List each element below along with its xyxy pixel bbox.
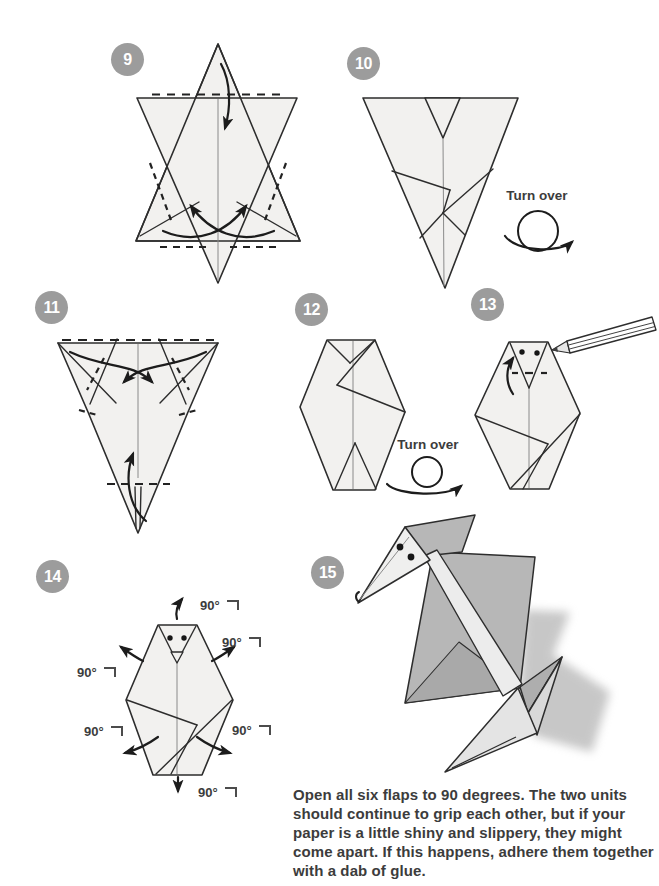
angle-value: 90° [232, 723, 252, 738]
angle-value: 90° [222, 635, 242, 650]
hexagon-shape [300, 340, 405, 490]
bird-face-shape [126, 625, 233, 775]
step-12-badge: 12 [295, 293, 328, 326]
angle-label-top: 90° [200, 598, 239, 613]
right-angle-icon [249, 637, 261, 647]
step-10-badge: 10 [347, 47, 380, 80]
angle-value: 90° [84, 724, 104, 739]
right-angle-icon [225, 787, 237, 797]
left-eye-dot [167, 635, 172, 640]
triangle-with-flaps-shape [58, 339, 218, 533]
right-eye-dot [181, 635, 186, 640]
step-14-badge: 14 [36, 560, 69, 593]
step-13-badge: 13 [471, 288, 504, 321]
turn-over-icon [387, 457, 461, 494]
right-angle-icon [259, 725, 271, 735]
turn-over-label-step10: Turn over [492, 188, 582, 203]
angle-label-upper-right: 90° [222, 635, 261, 650]
right-angle-icon [104, 667, 116, 677]
angle-label-bottom: 90° [198, 785, 237, 800]
origami-instructions-page: 9 10 11 12 13 14 15 Turn over Turn over … [0, 0, 659, 886]
left-eye-dot [397, 544, 404, 551]
right-eye-dot [408, 554, 415, 561]
step-14-figure [108, 592, 248, 804]
angle-value: 90° [200, 598, 220, 613]
right-eye-dot [534, 350, 539, 355]
turn-over-icon [505, 211, 572, 251]
left-eye-dot [519, 349, 524, 354]
step-15-figure [310, 505, 659, 790]
step-9-badge: 9 [111, 43, 144, 76]
leg [445, 688, 537, 772]
angle-label-upper-left: 90° [77, 665, 116, 680]
angle-value: 90° [77, 665, 97, 680]
finished-bird-model [356, 515, 610, 772]
angle-label-mid-right: 90° [232, 723, 271, 738]
step-15-badge: 15 [311, 556, 344, 589]
pencil-icon [552, 317, 656, 353]
beak-tip-curl [356, 592, 359, 602]
angle-value: 90° [198, 785, 218, 800]
instruction-caption: Open all six flaps to 90 degrees. The tw… [293, 786, 657, 880]
bird-face-shape [475, 342, 580, 489]
right-angle-icon [227, 600, 239, 610]
step-12-figure [293, 333, 468, 495]
step-13-figure [460, 312, 659, 499]
right-angle-icon [111, 726, 123, 736]
step-11-figure [40, 332, 235, 544]
angle-label-mid-left: 90° [84, 724, 123, 739]
turn-over-label-step12: Turn over [383, 437, 473, 452]
step-9-figure [120, 36, 310, 302]
step-11-badge: 11 [35, 291, 68, 324]
